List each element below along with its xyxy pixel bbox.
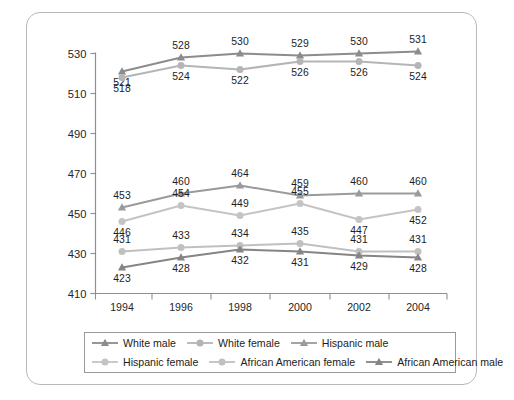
data-point-marker-circle — [356, 58, 363, 65]
data-point-marker-circle — [102, 359, 109, 366]
legend-marker-triangle-icon — [290, 337, 318, 349]
x-tick-label: 2000 — [288, 301, 312, 313]
legend-label: Hispanic female — [123, 356, 198, 368]
legend-marker-circle-icon — [91, 356, 119, 368]
data-label: 452 — [409, 215, 427, 226]
x-tick-label: 2004 — [406, 301, 430, 313]
data-label: 455 — [291, 186, 309, 197]
data-label: 528 — [172, 40, 190, 51]
data-point-marker-circle — [119, 218, 126, 225]
data-point-marker-circle — [178, 62, 185, 69]
data-label: 518 — [113, 83, 131, 94]
chart-legend: White maleWhite femaleHispanic maleHispa… — [84, 332, 456, 373]
legend-label: Hispanic male — [322, 337, 389, 349]
x-tick-label: 1996 — [169, 301, 193, 313]
y-tick-label: 530 — [68, 48, 87, 60]
data-point-marker-circle — [178, 202, 185, 209]
legend-label: African American female — [240, 356, 355, 368]
data-label: 526 — [350, 67, 368, 78]
y-tick-label: 450 — [68, 208, 87, 220]
legend-label: African American male — [397, 356, 503, 368]
y-tick-label: 490 — [68, 128, 87, 140]
legend-label: White female — [218, 337, 280, 349]
legend-marker-circle-icon — [186, 337, 214, 349]
data-label: 428 — [409, 263, 427, 274]
data-point-marker-circle — [178, 244, 185, 251]
data-label: 531 — [409, 34, 427, 45]
y-tick-label: 410 — [68, 288, 87, 300]
data-label: 524 — [409, 71, 427, 82]
legend-item-hispanic-female[interactable]: Hispanic female — [91, 356, 198, 368]
data-point-marker-circle — [415, 62, 422, 69]
data-label: 460 — [172, 176, 190, 187]
data-label: 433 — [172, 230, 190, 241]
data-point-marker-circle — [415, 206, 422, 213]
data-point-marker-circle — [196, 340, 203, 347]
legend-label: White male — [123, 337, 176, 349]
legend-item-hispanic-male[interactable]: Hispanic male — [290, 337, 389, 349]
legend-marker-triangle-icon — [91, 337, 119, 349]
data-label: 428 — [172, 263, 190, 274]
data-point-marker-circle — [297, 200, 304, 207]
data-point-marker-circle — [297, 58, 304, 65]
data-label: 435 — [291, 226, 309, 237]
data-label: 522 — [231, 75, 249, 86]
legend-row: Hispanic femaleAfrican American femaleAf… — [85, 353, 455, 372]
data-label: 432 — [231, 255, 249, 266]
y-tick-label: 510 — [68, 88, 87, 100]
legend-item-white-female[interactable]: White female — [186, 337, 280, 349]
data-label: 460 — [409, 176, 427, 187]
data-label: 429 — [350, 261, 368, 272]
legend-row: White maleWhite femaleHispanic male — [85, 334, 455, 353]
data-point-marker-circle — [119, 74, 126, 81]
data-label: 530 — [231, 36, 249, 47]
x-tick-label: 1998 — [228, 301, 252, 313]
legend-marker-triangle-icon — [365, 356, 393, 368]
x-tick-label: 2002 — [347, 301, 371, 313]
legend-item-african-american-male[interactable]: African American male — [365, 356, 503, 368]
data-label: 530 — [350, 36, 368, 47]
chart-figure: 4104304504704905105301994199619982000200… — [0, 0, 514, 400]
series-line — [122, 186, 418, 208]
y-tick-label: 430 — [68, 248, 87, 260]
data-point-marker-circle — [237, 66, 244, 73]
data-point-marker-circle — [119, 248, 126, 255]
legend-item-white-male[interactable]: White male — [91, 337, 176, 349]
series-white-male: 521528530529530531 — [113, 34, 427, 88]
data-point-marker-circle — [297, 240, 304, 247]
data-label: 431 — [291, 257, 309, 268]
data-label: 464 — [231, 168, 249, 179]
data-label: 423 — [113, 273, 131, 284]
legend-item-african-american-female[interactable]: African American female — [208, 356, 355, 368]
series-hispanic-male: 453460464459460460 — [113, 168, 427, 210]
series-line — [122, 62, 418, 78]
legend-marker-circle-icon — [208, 356, 236, 368]
data-point-marker-circle — [356, 216, 363, 223]
data-label: 454 — [172, 188, 190, 199]
data-point-marker-circle — [237, 212, 244, 219]
series-line — [122, 204, 418, 222]
data-label: 434 — [231, 228, 249, 239]
data-label: 453 — [113, 190, 131, 201]
data-label: 524 — [172, 71, 190, 82]
data-point-marker-circle — [219, 359, 226, 366]
data-label: 431 — [409, 234, 427, 245]
x-tick-label: 1994 — [110, 301, 134, 313]
data-label: 449 — [231, 198, 249, 209]
data-label: 460 — [350, 176, 368, 187]
y-tick-label: 470 — [68, 168, 87, 180]
data-label: 431 — [113, 234, 131, 245]
data-label: 431 — [350, 234, 368, 245]
data-label: 526 — [291, 67, 309, 78]
data-label: 529 — [291, 38, 309, 49]
